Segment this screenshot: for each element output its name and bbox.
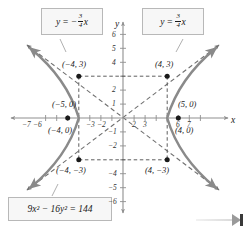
xtick-7: 7 (187, 121, 191, 129)
ytick-neg4: −4 (108, 170, 117, 178)
label-point-neg4-3: (−4, 3) (62, 60, 86, 69)
ytick-5: 5 (112, 45, 116, 53)
equation-text: 9x² − 16y² = 144 (28, 204, 93, 214)
point-pos4-neg3 (165, 157, 170, 162)
label-point-neg4-0: (−4, 0) (48, 126, 72, 135)
horizontal-scrollbar[interactable] (196, 214, 244, 226)
point-neg4-neg3 (76, 157, 81, 162)
ytick-4: 4 (112, 59, 116, 67)
label-point-neg4-neg3: (−4, −3) (56, 166, 86, 175)
x-axis-name: x (230, 115, 236, 125)
callout-right-lhs: y (160, 17, 164, 27)
callout-left-lhs: y (56, 17, 60, 27)
callout-asymptote-positive: y = 3 4 x (142, 8, 204, 35)
callout-right-eq: = (167, 17, 173, 27)
ytick-neg6: −6 (108, 198, 117, 206)
point-pos4-3 (165, 74, 170, 79)
callout-equation: 9x² − 16y² = 144 (8, 197, 112, 221)
point-neg5-0 (65, 116, 70, 121)
callout-left-sign: − (71, 17, 77, 27)
scrollbar-end-cap[interactable] (240, 214, 243, 226)
ytick-1: 1 (112, 100, 116, 108)
callout-left-var: x (84, 17, 88, 27)
callout-right-denominator: 4 (175, 21, 181, 29)
callout-asymptote-negative: y = − 3 4 x (41, 8, 103, 35)
xtick-neg6: −6 (33, 121, 42, 129)
callout-left-eq: = (62, 17, 68, 27)
ytick-neg1: −1 (108, 128, 117, 136)
label-point-neg5-0: (−5, 0) (52, 100, 76, 109)
xtick-6: 6 (176, 121, 180, 129)
xtick-neg2: −2 (97, 121, 106, 129)
point-neg4-3 (76, 74, 81, 79)
callout-right-var: x (181, 17, 185, 27)
callout-left-fraction: 3 4 (78, 13, 84, 28)
label-point-pos4-neg3: (4, −3) (145, 166, 169, 175)
ytick-neg5: −5 (108, 184, 117, 192)
xtick-2: 2 (132, 121, 136, 129)
scrollbar-track[interactable] (196, 219, 236, 221)
callout-left-denominator: 4 (78, 21, 84, 29)
ytick-2: 2 (112, 86, 116, 94)
callout-left-numerator: 3 (78, 13, 84, 20)
label-point-pos5-0: (5, 0) (178, 100, 196, 109)
y-axis-name: y (114, 19, 120, 29)
xtick-3: 3 (143, 121, 147, 129)
ytick-neg2: −2 (108, 142, 117, 150)
callout-right-fraction: 3 4 (175, 13, 181, 28)
callout-right-numerator: 3 (175, 13, 181, 20)
xtick-neg7: −7 (22, 121, 31, 129)
xtick-neg3: −3 (86, 121, 95, 129)
ytick-6: 6 (112, 31, 116, 39)
label-point-pos4-3: (4, 3) (155, 60, 173, 69)
